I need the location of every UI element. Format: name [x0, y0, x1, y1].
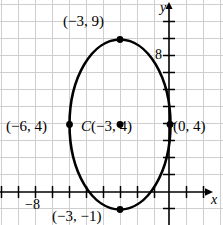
label-center: C(−3, 4): [81, 119, 132, 134]
x-tick-label-minus-8: −8: [25, 198, 40, 212]
coordinate-plane: [0, 0, 223, 225]
x-axis-label: x: [211, 193, 217, 207]
x-axis: [0, 188, 213, 196]
label-center-coords: (−3, 4): [91, 118, 132, 134]
point-top-vertex: [117, 36, 124, 43]
y-axis-label: y: [160, 1, 166, 15]
label-right-vertex: (0, 4): [173, 119, 206, 134]
label-left-vertex: (−6, 4): [6, 119, 47, 134]
point-bottom-vertex: [117, 206, 124, 213]
grid-horizontal-lines: [0, 5, 223, 209]
label-bottom-vertex: (−3, −1): [52, 209, 101, 224]
label-top-vertex: (−3, 9): [63, 14, 104, 29]
point-left-co-vertex: [66, 121, 73, 128]
label-center-letter: C: [81, 118, 91, 134]
y-tick-label-8: 8: [155, 48, 162, 62]
ellipse-graph-figure: (−3, 9) (−6, 4) C(−3, 4) (0, 4) (−3, −1)…: [0, 0, 223, 225]
